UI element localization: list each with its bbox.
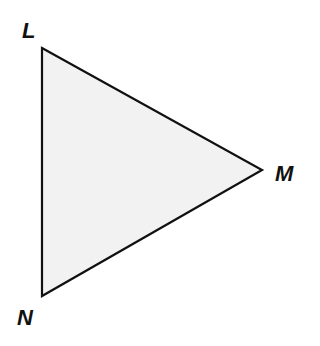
triangle-diagram: L M N: [0, 0, 320, 346]
vertex-label-N: N: [17, 305, 34, 330]
vertex-label-L: L: [22, 18, 35, 43]
vertex-label-M: M: [275, 161, 294, 186]
triangle-LMN: [42, 48, 262, 296]
